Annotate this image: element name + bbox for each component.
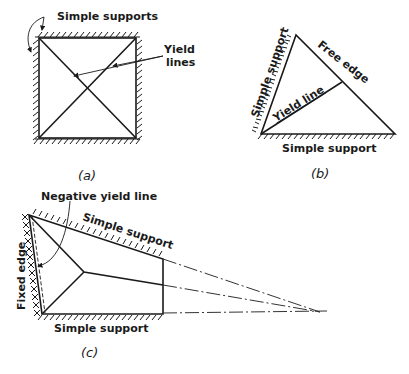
yield-lines-leader-arrow-2 [113, 56, 163, 66]
hatch-bottom-support [34, 139, 140, 144]
diagram-b-triangular-slab: Simple support Free edge Yield line Simp… [249, 25, 395, 181]
label-simple-support-bottom-b: Simple support [282, 142, 376, 155]
label-simple-supports: Simple supports [57, 10, 158, 23]
hatch-top-support [35, 32, 140, 37]
label-yield-line-b: Yield line [270, 83, 327, 125]
hatch-left-support [33, 40, 38, 140]
caption-c: (c) [81, 345, 98, 360]
supports-leader-arrow [28, 17, 44, 52]
hatch-right-support [137, 40, 142, 140]
supports-leader-arrow-2 [42, 17, 44, 30]
yield-line-diagrams: Simple supports Yield lines (a) Simple s… [0, 0, 409, 374]
label-fixed-edge: Fixed edge [15, 242, 28, 310]
construction-line-middle [163, 285, 320, 312]
diagram-a-square-slab: Simple supports Yield lines (a) [28, 10, 196, 183]
caption-a: (a) [78, 168, 96, 183]
hatch-bottom-support-c [38, 315, 162, 320]
label-negative-yield-line: Negative yield line [41, 190, 157, 203]
label-simple-support-bottom-c: Simple support [54, 322, 148, 335]
label-lines: lines [166, 56, 196, 69]
yield-line-c-lower [42, 272, 84, 314]
construction-line-bottom [163, 311, 327, 313]
negative-yield-line-leader-arrow [38, 201, 70, 266]
diagram-c-trapezoidal-slab: Negative yield line Simple support Fixed… [15, 190, 327, 360]
caption-b: (b) [311, 166, 329, 181]
label-yield: Yield [163, 43, 195, 56]
construction-line-top [163, 259, 320, 312]
